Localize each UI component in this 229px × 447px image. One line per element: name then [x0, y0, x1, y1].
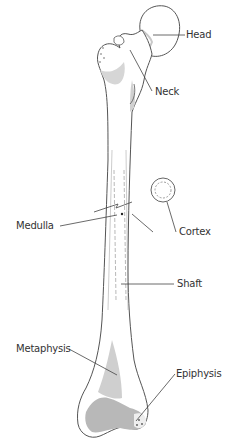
- label-head: Head: [186, 29, 211, 41]
- leader-cortex-circle: [167, 202, 176, 232]
- label-metaphysis: Metaphysis: [16, 343, 71, 355]
- cortex-cross-section: [151, 178, 175, 202]
- label-epiphysis: Epiphysis: [176, 368, 221, 380]
- label-neck: Neck: [155, 86, 179, 98]
- label-cortex: Cortex: [179, 226, 211, 238]
- label-shaft: Shaft: [177, 278, 202, 290]
- leader-cortex-shaft: [132, 214, 153, 232]
- label-medulla: Medulla: [16, 220, 54, 232]
